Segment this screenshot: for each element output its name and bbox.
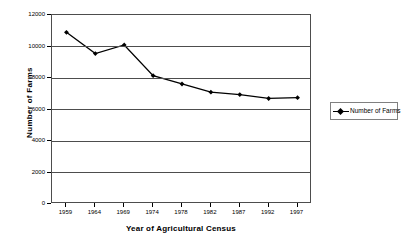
series-markers bbox=[64, 30, 300, 101]
y-axis-tick bbox=[47, 140, 51, 141]
y-axis-tick bbox=[47, 203, 51, 204]
gridline bbox=[52, 109, 310, 110]
data-point-marker bbox=[237, 92, 242, 97]
y-axis-tick-label: 2000 bbox=[15, 169, 45, 175]
legend: Number of Farms bbox=[330, 102, 398, 120]
data-point-marker bbox=[180, 82, 185, 87]
data-point-marker bbox=[266, 96, 271, 101]
x-axis-tick bbox=[239, 203, 240, 207]
y-axis-tick bbox=[47, 109, 51, 110]
y-axis-tick-label: 8000 bbox=[15, 74, 45, 80]
gridline bbox=[52, 46, 310, 47]
y-axis-tick bbox=[47, 77, 51, 78]
x-axis-tick bbox=[94, 203, 95, 207]
line-chart: Number of Farms 020004000600080001000012… bbox=[0, 0, 401, 245]
x-axis-title: Year of Agricultural Census bbox=[51, 224, 311, 233]
legend-label-number-of-farms: Number of Farms bbox=[349, 107, 401, 115]
y-axis-tick-label: 10000 bbox=[15, 43, 45, 49]
x-axis-tick bbox=[268, 203, 269, 207]
series-line-number-of-farms bbox=[66, 32, 297, 98]
y-axis-tick bbox=[47, 14, 51, 15]
data-point-marker bbox=[295, 95, 300, 100]
y-axis-tick bbox=[47, 172, 51, 173]
y-axis-tick bbox=[47, 46, 51, 47]
x-axis-tick bbox=[123, 203, 124, 207]
x-axis-tick bbox=[181, 203, 182, 207]
y-axis-tick-label: 0 bbox=[15, 200, 45, 206]
gridline bbox=[52, 172, 310, 173]
x-axis-tick bbox=[152, 203, 153, 207]
data-point-marker bbox=[208, 90, 213, 95]
x-axis-tick bbox=[65, 203, 66, 207]
gridline bbox=[52, 141, 310, 142]
x-axis-tick-label: 1997 bbox=[280, 209, 314, 216]
y-axis-tick-label: 6000 bbox=[15, 106, 45, 112]
y-axis-tick-label: 12000 bbox=[15, 11, 45, 17]
y-axis-tick-labels: 020004000600080001000012000 bbox=[14, 0, 45, 245]
plot-area bbox=[51, 14, 311, 203]
y-axis-tick-label: 4000 bbox=[15, 137, 45, 143]
gridline bbox=[52, 78, 310, 79]
legend-marker-icon bbox=[333, 107, 349, 115]
x-axis-tick bbox=[210, 203, 211, 207]
x-axis-tick bbox=[297, 203, 298, 207]
